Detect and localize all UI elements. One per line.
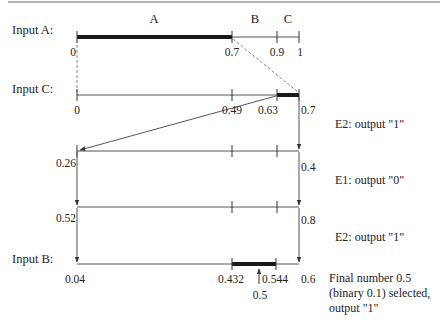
row-label-input-c: Input C: (12, 82, 53, 96)
note-e1-output-0: E1: output "0" (335, 173, 404, 188)
tick-label: 1 (297, 45, 303, 59)
tick-label: 0.432 (218, 272, 244, 286)
tick-label: 0.63 (258, 103, 278, 117)
note-e2-output-1: E2: output "1" (335, 117, 404, 132)
final-number-label: 0.5 (253, 288, 267, 302)
number-line-e2-first (77, 145, 299, 157)
number-line-input-a (77, 31, 299, 43)
tick-label: 0.7 (301, 103, 315, 117)
tick-label: 0.6 (301, 272, 315, 286)
tick-label: 0.4 (301, 160, 315, 174)
tick-label: 0.7 (225, 45, 239, 59)
zoom-line-right (233, 39, 298, 92)
number-line-e1 (77, 201, 299, 213)
tick-label: 0.49 (222, 103, 242, 117)
tick-label: 0.52 (56, 211, 76, 225)
row-label-input-b: Input B: (12, 252, 53, 266)
segment-label-c: C (284, 12, 292, 26)
tick-label: 0.26 (56, 156, 76, 170)
tick-label: 0.8 (301, 213, 315, 227)
tick-label: 0.04 (65, 272, 85, 286)
tick-label: 0.9 (270, 45, 284, 59)
tick-label: 0 (74, 103, 80, 117)
tick-label: 0.544 (262, 272, 288, 286)
segment-label-b: B (251, 12, 259, 26)
note-e2-output-1-second: E2: output "1" (335, 230, 404, 245)
segment-label-a: A (149, 12, 158, 26)
arithmetic-coding-diagram: A B C Input A: 0 0.7 0.9 1 Input C: 0 0.… (0, 0, 444, 326)
final-note-line-1: Final number 0.5 (329, 271, 430, 286)
tick-label: 0 (70, 45, 76, 59)
final-note-line-3: output "1" (329, 301, 430, 316)
rescale-arrow-diagonal (80, 96, 276, 150)
row-label-input-a: Input A: (12, 23, 53, 37)
final-note-line-2: (binary 0.1) selected, (329, 286, 430, 301)
final-note: Final number 0.5 (binary 0.1) selected, … (329, 271, 430, 316)
number-line-input-b (77, 258, 299, 270)
